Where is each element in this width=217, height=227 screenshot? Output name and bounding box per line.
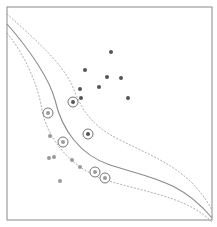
data-point-dark xyxy=(78,87,82,91)
data-point-light xyxy=(52,155,56,159)
data-point-light xyxy=(103,176,107,180)
data-point-dark xyxy=(119,76,123,80)
data-point-dark xyxy=(109,50,113,54)
data-point-light xyxy=(93,170,97,174)
data-point-dark xyxy=(79,96,83,100)
data-point-light xyxy=(58,179,62,183)
data-point-dark xyxy=(105,75,109,79)
data-point-light xyxy=(47,156,51,160)
data-point-light xyxy=(46,111,50,115)
plot-frame xyxy=(7,7,212,220)
data-point-dark xyxy=(86,132,90,136)
data-point-light xyxy=(61,140,65,144)
svm-diagram xyxy=(0,0,217,227)
data-point-light xyxy=(78,165,82,169)
data-point-dark xyxy=(97,85,101,89)
data-point-dark xyxy=(71,100,75,104)
data-point-dark xyxy=(83,68,87,72)
data-point-light xyxy=(70,158,74,162)
data-point-dark xyxy=(126,96,130,100)
data-point-light xyxy=(48,134,52,138)
